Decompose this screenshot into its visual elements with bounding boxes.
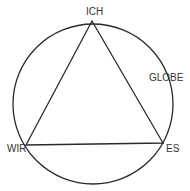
label-globe: GLOBE [149, 72, 184, 83]
tci-diagram: ICH WIR ES GLOBE [0, 0, 190, 191]
label-wir: WIR [7, 143, 26, 154]
label-ich: ICH [86, 6, 103, 17]
label-es: ES [166, 143, 180, 154]
globe-circle [13, 24, 173, 184]
